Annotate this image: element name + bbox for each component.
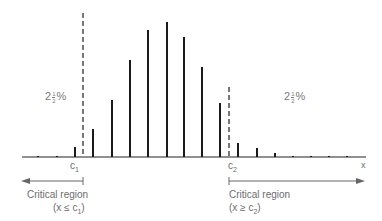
c1-subscript: 1 <box>75 166 79 173</box>
right-region-condition: (x ≥ c2) <box>229 203 261 215</box>
right-pct-fraction: 12 <box>291 91 294 104</box>
right-tail-percentage: 212% <box>284 91 305 104</box>
right-pct-den: 2 <box>291 98 294 104</box>
right-cond-post: ) <box>257 202 260 213</box>
left-tail-percentage: 212% <box>45 91 66 104</box>
right-arrowhead-icon <box>356 178 365 184</box>
left-region-condition: (x ≤ c1) <box>53 203 85 215</box>
left-pct-num: 1 <box>52 91 55 98</box>
left-pct-den: 2 <box>52 98 55 104</box>
left-cond-pre: (x ≤ c <box>53 202 77 213</box>
x-axis-label: x <box>361 161 366 170</box>
left-pct-whole: 2 <box>45 90 51 102</box>
left-pct-suffix: % <box>56 90 66 102</box>
c1-label: c1 <box>70 161 79 173</box>
critical-region-diagram: 212% 212% c1 c2 x Critical region (x ≤ c… <box>0 0 382 221</box>
left-cond-post: ) <box>81 202 84 213</box>
left-arrowhead-icon <box>21 178 30 184</box>
distribution-plot <box>0 0 382 221</box>
left-pct-fraction: 12 <box>52 91 55 104</box>
right-pct-suffix: % <box>295 90 305 102</box>
right-pct-whole: 2 <box>284 90 290 102</box>
right-region-title: Critical region <box>229 190 290 200</box>
left-region-title: Critical region <box>27 190 88 200</box>
right-cond-pre: (x ≥ c <box>229 202 253 213</box>
right-pct-num: 1 <box>291 91 294 98</box>
c2-subscript: 2 <box>233 166 237 173</box>
c2-label: c2 <box>228 161 237 173</box>
